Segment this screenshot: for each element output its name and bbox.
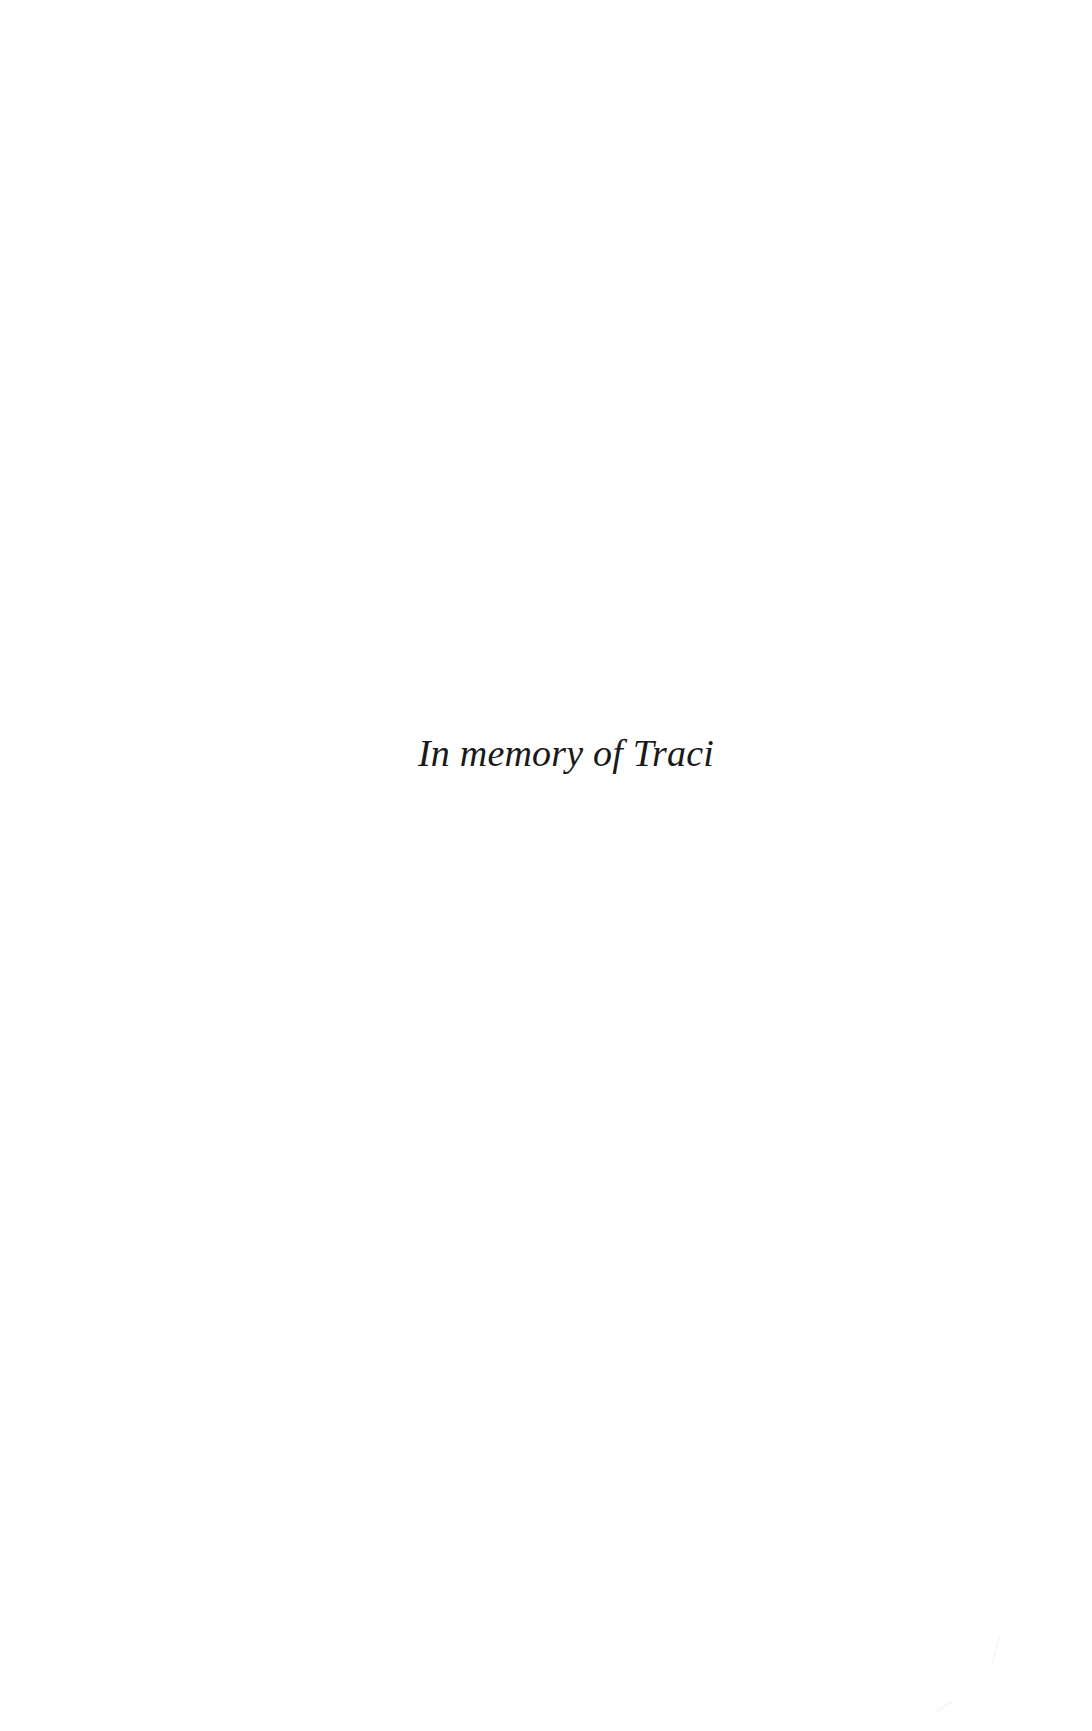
scan-artifact [991, 1635, 1001, 1664]
dedication-text: In memory of Traci [396, 730, 736, 776]
book-page: In memory of Traci [0, 0, 1092, 1731]
scan-artifact [936, 1700, 952, 1713]
